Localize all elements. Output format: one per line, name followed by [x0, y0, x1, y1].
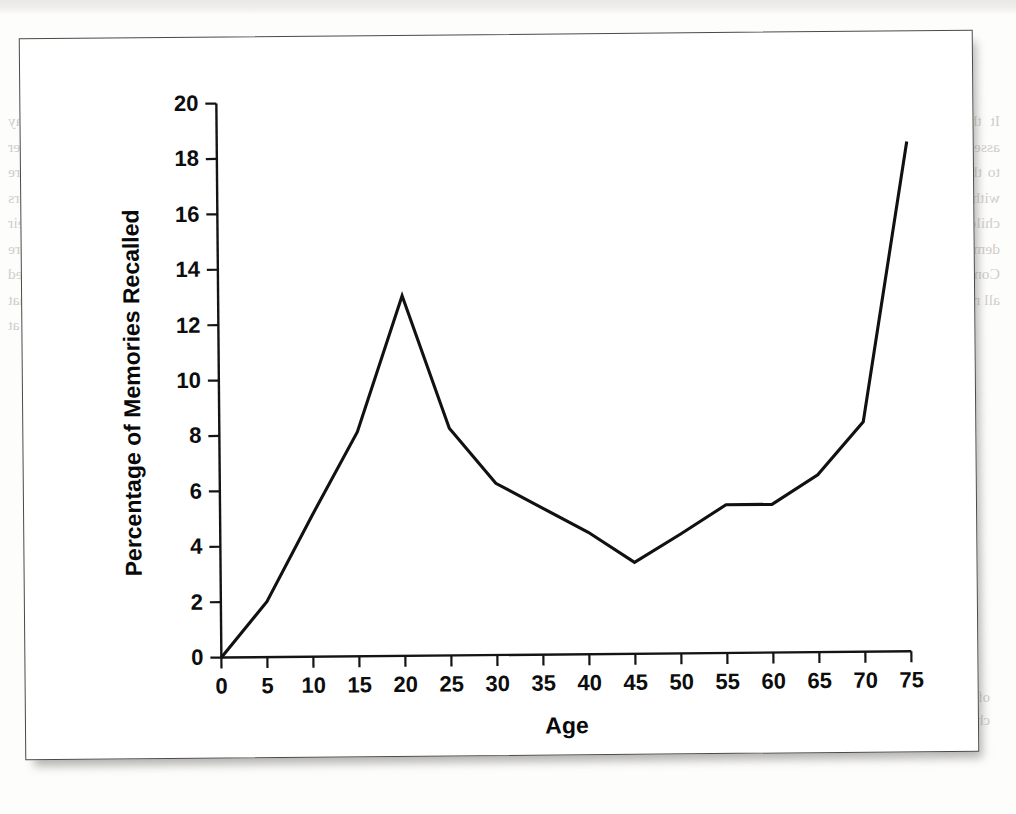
y-axis-tick-label: 20: [174, 91, 199, 117]
x-axis-tick-label: 70: [853, 668, 878, 694]
x-axis-tick-label: 15: [347, 672, 372, 698]
x-axis-tick-label: 55: [715, 669, 740, 695]
x-axis-tick-label: 45: [623, 670, 648, 696]
x-axis-title: Age: [545, 712, 589, 739]
x-axis-tick-label: 40: [577, 670, 602, 696]
scan-edge-band: [0, 0, 1016, 14]
x-axis-tick-label: 5: [261, 673, 273, 699]
y-axis-tick-label: 0: [191, 645, 203, 671]
chart-axes: [216, 97, 911, 657]
y-axis-tick-label: 2: [191, 589, 203, 615]
y-axis-tick-label: 8: [189, 423, 201, 449]
x-axis-tick-label: 50: [669, 669, 694, 695]
chart-svg: [20, 31, 978, 760]
x-axis-line: [221, 651, 911, 657]
y-axis-tick-label: 6: [189, 478, 201, 504]
x-axis-tick-label: 75: [899, 667, 924, 693]
x-axis-tick-label: 60: [761, 668, 786, 694]
x-axis-tick-label: 10: [301, 673, 326, 699]
y-axis-tick-label: 14: [175, 257, 200, 283]
figure-plate: 02468101214161820 0510152025303540455055…: [19, 30, 980, 761]
y-axis-tick-label: 10: [176, 368, 201, 394]
y-axis-tick-label: 12: [176, 312, 201, 338]
y-axis-tick-label: 16: [175, 202, 200, 228]
x-axis-tick-label: 25: [439, 671, 464, 697]
x-axis-tick-label: 0: [215, 673, 227, 699]
y-axis-tick-label: 18: [174, 146, 199, 172]
x-axis-tick-label: 35: [531, 670, 556, 696]
line-chart: 02468101214161820 0510152025303540455055…: [20, 31, 978, 760]
x-axis-tick-label: 65: [807, 668, 832, 694]
data-series-line: [217, 142, 912, 658]
x-axis-tick-label: 20: [393, 672, 418, 698]
x-axis-tick-label: 30: [485, 671, 510, 697]
y-axis-title: Percentage of Memories Recalled: [117, 209, 147, 576]
y-axis-tick-label: 4: [190, 534, 202, 560]
